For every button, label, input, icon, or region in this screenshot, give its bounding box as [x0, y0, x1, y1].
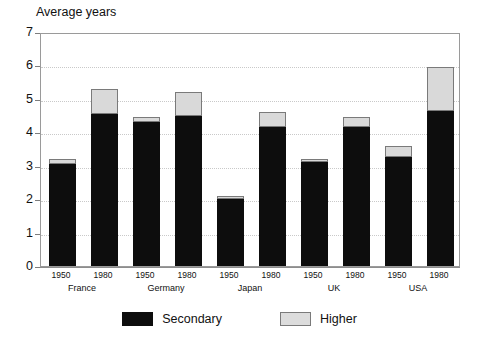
- bar-column[interactable]: [175, 32, 202, 266]
- x-tick-label: 1980: [333, 270, 377, 280]
- bar-segment-secondary: [301, 162, 328, 266]
- x-axis-line: [40, 267, 460, 268]
- x-tick-label: 1980: [165, 270, 209, 280]
- y-tick-label: 1: [7, 226, 33, 240]
- x-tick-label: 1950: [375, 270, 419, 280]
- bar-segment-higher: [301, 159, 328, 162]
- x-group-label: USA: [383, 283, 453, 293]
- bar-segment-higher: [343, 117, 370, 127]
- bar-segment-higher: [259, 112, 286, 127]
- x-tick-label: 1950: [123, 270, 167, 280]
- bar-segment-secondary: [133, 122, 160, 266]
- y-tick-label: 2: [7, 192, 33, 206]
- x-axis-group-labels: FranceGermanyJapanUKUSA: [0, 283, 479, 303]
- legend-label: Secondary: [162, 312, 222, 326]
- bar-segment-higher: [385, 146, 412, 158]
- bar-column[interactable]: [91, 32, 118, 266]
- bar-segment-secondary: [343, 127, 370, 266]
- bar-segment-secondary: [175, 116, 202, 266]
- bar-segment-higher: [91, 89, 118, 114]
- x-tick-label: 1980: [417, 270, 461, 280]
- plot-area: [40, 33, 460, 267]
- chart-figure: Average years 01234567 19501980195019801…: [0, 0, 479, 349]
- legend-swatch-higher: [280, 312, 311, 326]
- legend-label: Higher: [320, 312, 357, 326]
- bar-segment-higher: [49, 159, 76, 164]
- bar-column[interactable]: [259, 32, 286, 266]
- bar-segment-secondary: [217, 199, 244, 266]
- bar-segment-higher: [133, 117, 160, 122]
- bar-column[interactable]: [217, 32, 244, 266]
- bar-segment-higher: [175, 92, 202, 115]
- bar-segment-secondary: [259, 127, 286, 266]
- bar-column[interactable]: [301, 32, 328, 266]
- x-tick-label: 1980: [81, 270, 125, 280]
- y-tick-label: 3: [7, 159, 33, 173]
- bar-segment-secondary: [427, 111, 454, 266]
- bar-column[interactable]: [343, 32, 370, 266]
- bar-segment-higher: [427, 67, 454, 110]
- x-group-label: Germany: [131, 283, 201, 293]
- bar-column[interactable]: [49, 32, 76, 266]
- bar-column[interactable]: [133, 32, 160, 266]
- x-group-label: UK: [299, 283, 369, 293]
- bar-segment-secondary: [49, 164, 76, 266]
- chart-axis-title: Average years: [36, 5, 116, 19]
- bar-segment-secondary: [91, 114, 118, 266]
- chart-legend: SecondaryHigher: [0, 312, 479, 326]
- legend-swatch-secondary: [122, 312, 153, 326]
- plot-inner: [41, 34, 459, 266]
- y-tick-label: 6: [7, 58, 33, 72]
- y-tick-label: 5: [7, 92, 33, 106]
- x-tick-label: 1950: [207, 270, 251, 280]
- x-tick-label: 1980: [249, 270, 293, 280]
- legend-item[interactable]: Secondary: [122, 312, 222, 326]
- x-group-label: Japan: [215, 283, 285, 293]
- bar-segment-higher: [217, 196, 244, 199]
- y-tick-label: 4: [7, 125, 33, 139]
- bar-column[interactable]: [427, 32, 454, 266]
- bar-segment-secondary: [385, 157, 412, 266]
- bar-column[interactable]: [385, 32, 412, 266]
- x-tick-label: 1950: [291, 270, 335, 280]
- x-tick-label: 1950: [39, 270, 83, 280]
- legend-item[interactable]: Higher: [280, 312, 357, 326]
- x-group-label: France: [47, 283, 117, 293]
- y-tick-label: 7: [7, 25, 33, 39]
